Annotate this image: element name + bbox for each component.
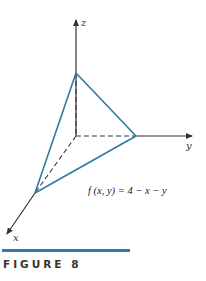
x-axis xyxy=(7,193,35,234)
y-axis-label: y xyxy=(186,140,192,151)
plane-diagram xyxy=(0,0,206,281)
hidden-edges xyxy=(35,73,136,193)
x-axis-label: x xyxy=(13,232,19,243)
figure-caption: FIGURE 8 xyxy=(3,258,81,270)
z-axis-label: z xyxy=(81,17,86,28)
plane-triangle xyxy=(35,73,136,193)
function-formula: f (x, y) = 4 − x − y xyxy=(88,185,167,196)
caption-bar xyxy=(2,249,130,252)
